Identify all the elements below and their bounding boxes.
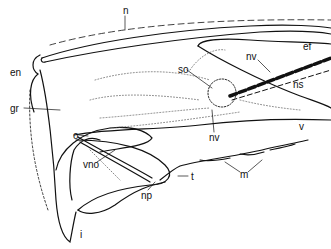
so-gland [208, 79, 236, 107]
label-i: i [80, 230, 82, 240]
label-so: so [178, 65, 189, 75]
label-nv-lower: nv [209, 133, 220, 143]
anatomical-drawing [0, 0, 331, 249]
label-np: np [141, 191, 152, 201]
label-vno: vno [83, 160, 99, 170]
label-gr: gr [10, 104, 19, 114]
label-nv-upper: nv [246, 52, 257, 62]
label-ef: ef [303, 42, 311, 52]
label-m: m [240, 170, 248, 180]
nerve-nv [230, 58, 331, 96]
label-en: en [10, 68, 21, 78]
label-t: t [191, 172, 194, 182]
external-naris [31, 55, 40, 112]
label-n: n [123, 6, 129, 16]
label-ns: ns [293, 80, 304, 90]
label-v: v [299, 122, 304, 132]
label-o: o [73, 131, 79, 141]
